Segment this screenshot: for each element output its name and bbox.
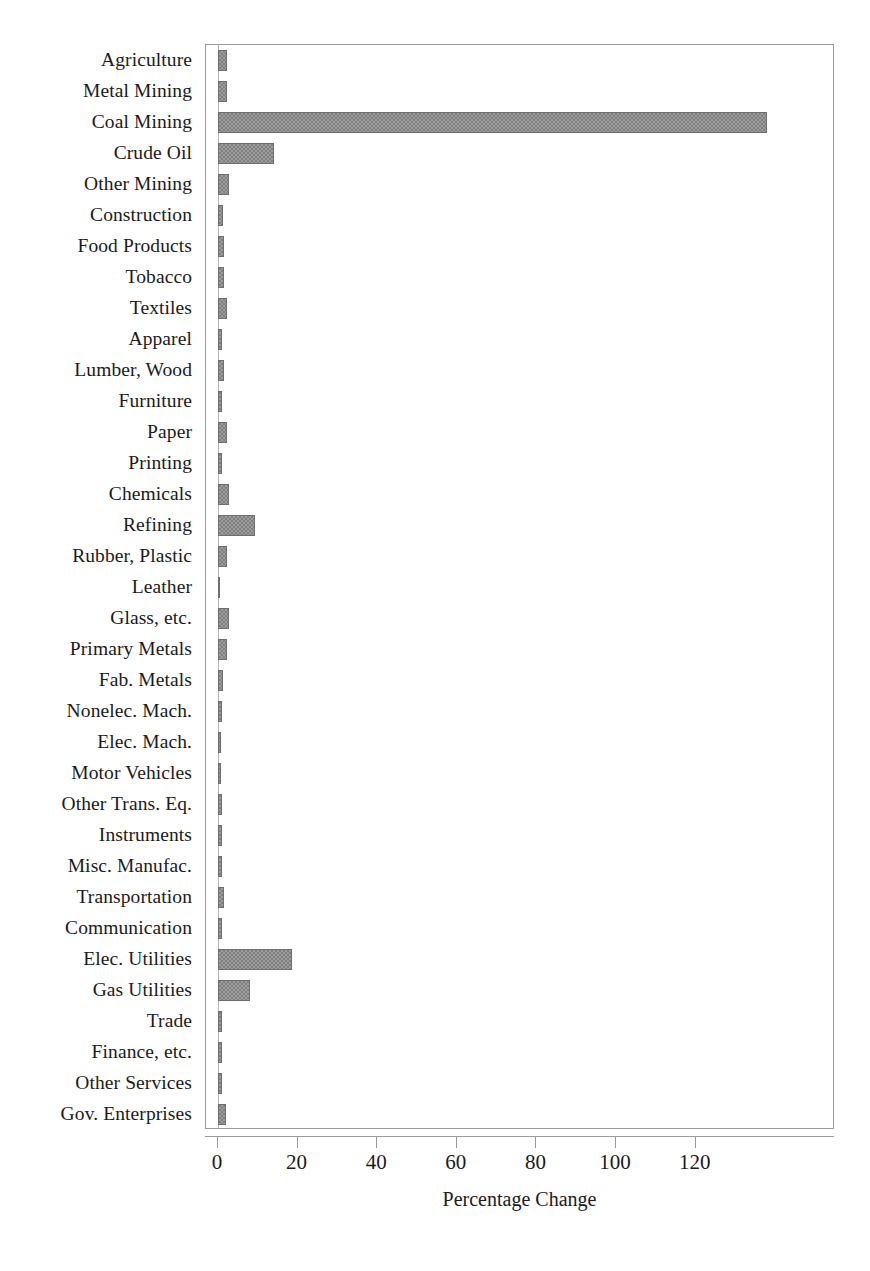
bar-row — [206, 1006, 833, 1037]
bar — [218, 391, 222, 412]
category-label: Textiles — [0, 292, 192, 323]
bar-row — [206, 169, 833, 200]
bar-row — [206, 138, 833, 169]
category-label: Elec. Utilities — [0, 943, 192, 974]
category-label: Motor Vehicles — [0, 757, 192, 788]
bar — [218, 174, 229, 195]
bar — [218, 949, 292, 970]
value-axis-tick-label: 0 — [182, 1150, 252, 1175]
bar-row — [206, 634, 833, 665]
value-axis-tick-label: 120 — [660, 1150, 730, 1175]
bar-row — [206, 975, 833, 1006]
plot-area-bars — [206, 45, 833, 1128]
bar — [218, 1104, 226, 1125]
category-label: Printing — [0, 447, 192, 478]
value-axis-tick — [695, 1137, 696, 1148]
bar-row — [206, 882, 833, 913]
category-label: Coal Mining — [0, 106, 192, 137]
category-label: Rubber, Plastic — [0, 540, 192, 571]
bar-row — [206, 913, 833, 944]
category-label: Crude Oil — [0, 137, 192, 168]
category-label: Metal Mining — [0, 75, 192, 106]
bar — [218, 1073, 222, 1094]
category-label: Trade — [0, 1005, 192, 1036]
bar — [218, 143, 274, 164]
bar — [218, 887, 224, 908]
category-label: Elec. Mach. — [0, 726, 192, 757]
bar — [218, 236, 224, 257]
figure-horizontal-bar-chart: AgricultureMetal MiningCoal MiningCrude … — [0, 0, 870, 1271]
value-axis-tick — [456, 1137, 457, 1148]
category-label: Instruments — [0, 819, 192, 850]
bar-row — [206, 448, 833, 479]
value-axis: 020406080100120 — [205, 1136, 834, 1196]
category-label: Apparel — [0, 323, 192, 354]
bar-row — [206, 696, 833, 727]
bar — [218, 856, 222, 877]
category-label: Communication — [0, 912, 192, 943]
bar — [218, 794, 222, 815]
bar-row — [206, 572, 833, 603]
value-axis-tick — [297, 1137, 298, 1148]
value-axis-tick-label: 20 — [262, 1150, 332, 1175]
bar-row — [206, 76, 833, 107]
value-axis-tick-label: 80 — [500, 1150, 570, 1175]
bar — [218, 639, 228, 660]
bar — [218, 1011, 222, 1032]
category-label: Agriculture — [0, 44, 192, 75]
bar — [218, 267, 224, 288]
value-axis-tick-label: 60 — [421, 1150, 491, 1175]
bar-row — [206, 851, 833, 882]
bar-row — [206, 417, 833, 448]
bar — [218, 515, 255, 536]
category-label: Construction — [0, 199, 192, 230]
bar — [218, 453, 222, 474]
category-label: Nonelec. Mach. — [0, 695, 192, 726]
bar — [218, 484, 229, 505]
bar-row — [206, 262, 833, 293]
bar — [218, 980, 250, 1001]
category-label: Gas Utilities — [0, 974, 192, 1005]
bar — [218, 670, 223, 691]
bar-row — [206, 479, 833, 510]
value-axis-tick — [217, 1137, 218, 1148]
bar — [218, 577, 220, 598]
category-label: Furniture — [0, 385, 192, 416]
category-label: Primary Metals — [0, 633, 192, 664]
bar — [218, 205, 223, 226]
plot-frame — [205, 44, 834, 1129]
value-axis-line — [205, 1136, 834, 1137]
figure-caption — [18, 1243, 318, 1265]
category-label: Transportation — [0, 881, 192, 912]
bar — [218, 1042, 222, 1063]
value-axis-title: Percentage Change — [205, 1188, 834, 1211]
bar-row — [206, 541, 833, 572]
category-label: Refining — [0, 509, 192, 540]
bar — [218, 608, 229, 629]
bar-row — [206, 355, 833, 386]
bar-row — [206, 45, 833, 76]
bar-row — [206, 324, 833, 355]
bar-row — [206, 107, 833, 138]
value-axis-tick — [535, 1137, 536, 1148]
bar — [218, 329, 222, 350]
category-label: Fab. Metals — [0, 664, 192, 695]
bar-row — [206, 231, 833, 262]
bar-row — [206, 758, 833, 789]
bar — [218, 825, 222, 846]
bar — [218, 298, 228, 319]
bar-row — [206, 603, 833, 634]
bar-row — [206, 1099, 833, 1130]
category-label: Tobacco — [0, 261, 192, 292]
bar — [218, 763, 221, 784]
bar — [218, 701, 222, 722]
bar — [218, 918, 222, 939]
category-label: Other Mining — [0, 168, 192, 199]
category-label: Chemicals — [0, 478, 192, 509]
bar — [218, 422, 227, 443]
bar-row — [206, 944, 833, 975]
category-axis-labels: AgricultureMetal MiningCoal MiningCrude … — [0, 44, 192, 1129]
category-label: Food Products — [0, 230, 192, 261]
bar — [218, 50, 227, 71]
bar-row — [206, 727, 833, 758]
